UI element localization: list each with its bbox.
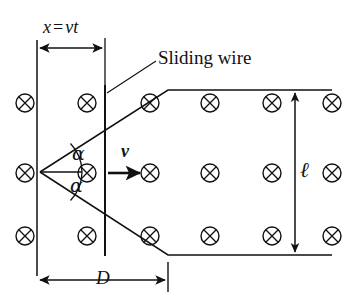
- field-marker-into-page: [78, 94, 96, 112]
- field-marker-into-page: [201, 164, 219, 182]
- separation-label: D: [96, 268, 110, 287]
- physics-diagram-figure: Sliding wire x=vt α α v ℓ D: [0, 0, 356, 297]
- angle-label-lower: α: [70, 176, 83, 195]
- field-marker-into-page: [263, 227, 281, 245]
- equals-sign: =: [51, 17, 65, 37]
- field-marker-into-page: [201, 94, 219, 112]
- length-label: ℓ: [300, 160, 309, 181]
- field-marker-into-page: [263, 94, 281, 112]
- sliding-wire-leader-line: [107, 61, 156, 93]
- field-marker-into-page: [263, 164, 281, 182]
- displacement-symbol: x: [43, 17, 51, 37]
- field-marker-into-page: [78, 227, 96, 245]
- displacement-value: vt: [65, 17, 78, 37]
- field-marker-into-page: [16, 164, 34, 182]
- angle-label-upper: α: [72, 144, 85, 163]
- field-marker-into-page: [16, 94, 34, 112]
- field-marker-into-page: [323, 94, 341, 112]
- field-marker-into-page: [323, 227, 341, 245]
- magnetic-field-marker-grid: [16, 94, 341, 245]
- field-marker-into-page: [141, 227, 159, 245]
- displacement-label: x=vt: [43, 18, 78, 36]
- field-marker-into-page: [323, 164, 341, 182]
- dimension-x-eq-vt: [40, 38, 105, 86]
- field-marker-into-page: [141, 164, 159, 182]
- velocity-label: v: [121, 142, 129, 160]
- field-marker-into-page: [201, 227, 219, 245]
- diagram-canvas: [0, 0, 356, 297]
- lower-rail: [40, 172, 332, 255]
- field-marker-into-page: [16, 227, 34, 245]
- sliding-wire-label: Sliding wire: [158, 48, 251, 67]
